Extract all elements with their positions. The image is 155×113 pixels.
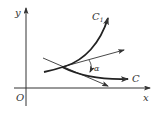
curve-c1-label: C1 — [92, 11, 103, 23]
y-axis-label: y — [14, 7, 21, 18]
x-axis-label: x — [143, 92, 149, 103]
curve-c1-label-sub: 1 — [100, 16, 104, 23]
curve-c-label: C — [132, 73, 140, 84]
origin-label: O — [16, 92, 24, 103]
angle-arc — [89, 60, 91, 72]
angle-label: α — [94, 64, 100, 73]
diagram: y x O α C1 C — [0, 0, 155, 113]
